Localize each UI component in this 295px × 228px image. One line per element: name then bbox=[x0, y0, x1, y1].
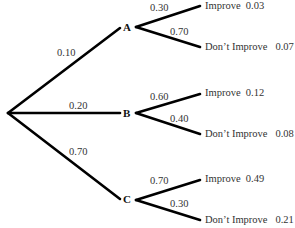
prob-c: 0.70 bbox=[69, 147, 87, 158]
outcome-label: Improve bbox=[205, 0, 241, 11]
branch-a-dont bbox=[136, 27, 200, 47]
prob-a-improve: 0.30 bbox=[150, 3, 168, 14]
outcome-b-improve: Improve 0.12 bbox=[205, 88, 264, 99]
prob-c-dont: 0.30 bbox=[170, 199, 188, 210]
prob-a: 0.10 bbox=[57, 48, 75, 59]
node-a: A bbox=[123, 22, 131, 33]
outcome-label: Don’t Improve bbox=[205, 128, 268, 139]
outcome-label: Improve bbox=[205, 87, 241, 98]
tree-lines bbox=[0, 0, 295, 228]
joint-prob: 0.21 bbox=[275, 214, 293, 225]
joint-prob: 0.07 bbox=[275, 41, 293, 52]
branch-root-a bbox=[8, 28, 120, 113]
branch-b-dont bbox=[136, 113, 200, 134]
outcome-b-dont: Don’t Improve 0.08 bbox=[205, 129, 294, 140]
outcome-c-dont: Don’t Improve 0.21 bbox=[205, 215, 294, 226]
joint-prob: 0.03 bbox=[246, 0, 264, 11]
prob-a-dont: 0.70 bbox=[170, 27, 188, 38]
joint-prob: 0.49 bbox=[246, 173, 264, 184]
prob-b: 0.20 bbox=[69, 101, 87, 112]
prob-c-improve: 0.70 bbox=[150, 176, 168, 187]
prob-b-improve: 0.60 bbox=[150, 92, 168, 103]
prob-b-dont: 0.40 bbox=[170, 114, 188, 125]
outcome-c-improve: Improve 0.49 bbox=[205, 174, 264, 185]
outcome-label: Improve bbox=[205, 173, 241, 184]
joint-prob: 0.12 bbox=[246, 87, 264, 98]
outcome-a-dont: Don’t Improve 0.07 bbox=[205, 42, 294, 53]
outcome-a-improve: Improve 0.03 bbox=[205, 1, 264, 12]
branch-c-dont bbox=[136, 200, 200, 220]
joint-prob: 0.08 bbox=[275, 128, 293, 139]
node-c: C bbox=[123, 194, 131, 205]
node-b: B bbox=[123, 108, 130, 119]
outcome-label: Don’t Improve bbox=[205, 41, 268, 52]
branch-root-c bbox=[8, 113, 120, 199]
outcome-label: Don’t Improve bbox=[205, 214, 268, 225]
